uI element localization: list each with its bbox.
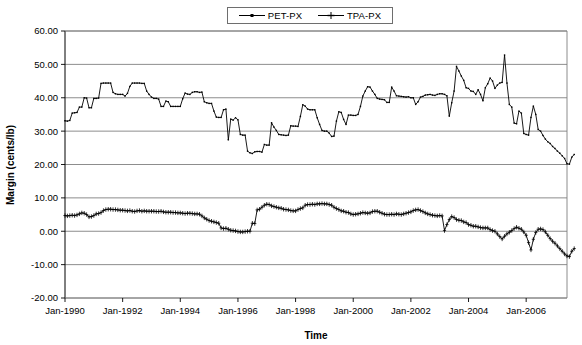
- y-tick-label: 50.00: [34, 59, 58, 70]
- series-line-pet-px: [65, 55, 574, 164]
- y-axis-title: Margin (cents/lb): [5, 125, 16, 205]
- x-tick-label: Jan-2006: [506, 305, 546, 316]
- y-tick-label: -20.00: [31, 292, 58, 303]
- x-tick-label: Jan-2004: [449, 305, 489, 316]
- gridlines: [65, 31, 567, 298]
- x-tick-label: Jan-1992: [103, 305, 143, 316]
- x-tick-label: Jan-1996: [218, 305, 258, 316]
- x-axis-ticks: Jan-1990Jan-1992Jan-1994Jan-1996Jan-1998…: [45, 298, 546, 316]
- y-tick-label: 10.00: [34, 192, 58, 203]
- series-layer: [63, 54, 575, 258]
- x-tick-label: Jan-1990: [45, 305, 85, 316]
- y-axis-ticks: 60.0050.0040.0030.0020.0010.000.00-10.00…: [31, 25, 65, 303]
- chart-plot: 60.0050.0040.0030.0020.0010.000.00-10.00…: [0, 0, 582, 345]
- y-tick-label: 30.00: [34, 126, 58, 137]
- chart-container: PET-PX TPA-PX 60.0050.0040.0030.0020.001…: [0, 0, 582, 345]
- x-tick-label: Jan-1994: [160, 305, 200, 316]
- y-tick-label: 20.00: [34, 159, 58, 170]
- y-tick-label: 60.00: [34, 25, 58, 36]
- x-axis-title: Time: [304, 330, 328, 341]
- series-markers-pet-px: [64, 54, 575, 165]
- series-markers-tpa-px: [63, 201, 575, 258]
- y-tick-label: -10.00: [31, 259, 58, 270]
- y-tick-label: 0.00: [40, 226, 59, 237]
- x-tick-label: Jan-1998: [276, 305, 316, 316]
- y-tick-label: 40.00: [34, 92, 58, 103]
- x-tick-label: Jan-2000: [333, 305, 373, 316]
- x-tick-label: Jan-2002: [391, 305, 431, 316]
